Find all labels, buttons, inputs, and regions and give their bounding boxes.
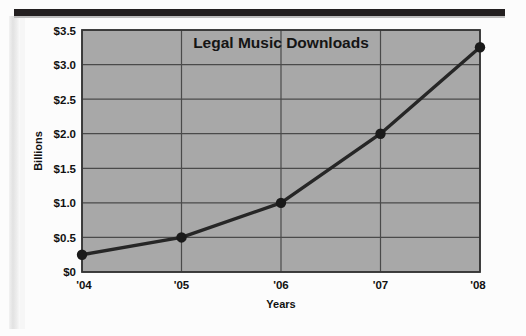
y-tick-label-1-5: $1.5 — [54, 163, 77, 175]
data-point-04 — [77, 250, 87, 260]
x-tick-label-08: '08 — [470, 279, 486, 291]
y-axis-tick-labels: $3.5 $3.0 $2.5 $2.0 $1.5 $1.0 $0.5 $0 — [54, 25, 77, 279]
y-tick-label-3-5: $3.5 — [54, 25, 77, 37]
data-point-07 — [375, 129, 385, 139]
x-axis-title: Years — [266, 298, 295, 310]
y-axis-title: Billions — [32, 131, 44, 171]
chart-figure: Legal Music Downloads $3.5 $3.0 $2.5 $2.… — [0, 0, 526, 336]
y-tick-label-3-0: $3.0 — [54, 59, 76, 71]
data-point-08 — [475, 42, 485, 52]
data-point-05 — [176, 232, 186, 242]
x-tick-label-07: '07 — [373, 279, 389, 291]
y-tick-label-2-0: $2.0 — [54, 128, 76, 140]
x-tick-label-04: '04 — [76, 279, 92, 291]
y-tick-label-0-5: $0.5 — [54, 232, 77, 244]
x-tick-label-05: '05 — [174, 279, 190, 291]
line-chart: Legal Music Downloads $3.5 $3.0 $2.5 $2.… — [0, 0, 526, 336]
y-tick-label-0: $0 — [63, 266, 76, 278]
x-tick-label-06: '06 — [273, 279, 289, 291]
y-tick-label-1-0: $1.0 — [54, 197, 76, 209]
y-tick-label-2-5: $2.5 — [54, 94, 77, 106]
x-axis-tick-labels: '04 '05 '06 '07 '08 — [76, 279, 486, 291]
data-point-06 — [276, 198, 286, 208]
chart-title: Legal Music Downloads — [193, 34, 369, 51]
